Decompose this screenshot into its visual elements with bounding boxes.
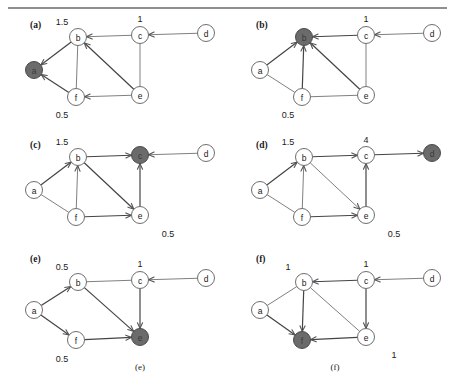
edge-c-to-b xyxy=(87,35,132,36)
panel-tag: (e) xyxy=(30,254,41,265)
node-label-b: b xyxy=(302,33,307,43)
node-label-b: b xyxy=(302,153,307,163)
edge-e-to-f xyxy=(310,337,357,339)
panel-tag: (f) xyxy=(256,254,266,265)
node-label-a: a xyxy=(32,186,37,196)
weight-label: 1 xyxy=(285,262,290,272)
edge-c-to-b xyxy=(313,280,358,281)
edge-a-to-b xyxy=(267,162,297,185)
edge-b-to-e xyxy=(84,288,133,332)
graph-panel-f: abcdef111(f) xyxy=(252,254,441,360)
panel-tag: (a) xyxy=(30,20,41,31)
edge-d-to-c xyxy=(149,153,198,154)
node-label-d: d xyxy=(430,149,435,159)
edge-d-to-c xyxy=(149,278,198,279)
edge-f-to-b xyxy=(302,46,303,89)
edge-b-to-f xyxy=(302,290,303,331)
node-label-a: a xyxy=(32,306,37,316)
edge-a-to-f xyxy=(41,195,69,213)
graph-panel-c: abcdef1.50.5(c) xyxy=(26,137,215,239)
edge-b-to-c xyxy=(313,155,358,156)
edge-b-to-c xyxy=(87,280,132,281)
edge-f-to-e xyxy=(84,337,131,339)
edge-d-to-c xyxy=(375,33,424,34)
edge-a-to-f xyxy=(267,75,295,93)
weight-label: 1 xyxy=(363,259,368,269)
node-label-d: d xyxy=(204,29,209,39)
weight-label: 1 xyxy=(391,350,396,360)
weight-label: 1 xyxy=(137,14,142,24)
panels-group: abcdef1.510.5(a)abcdef10.5(b)abcdef1.50.… xyxy=(26,14,441,364)
edge-a-to-f xyxy=(267,315,295,335)
edge-b-to-e xyxy=(310,163,360,209)
edge-f-to-e xyxy=(85,215,132,216)
node-label-b: b xyxy=(76,33,81,43)
edge-f-to-a xyxy=(41,75,69,93)
graph-panel-e: abcdef0.510.5(e) xyxy=(26,254,215,364)
edge-a-to-b xyxy=(267,42,297,65)
bottom-captions-group: (e)(f) xyxy=(135,362,340,372)
node-label-d: d xyxy=(430,274,435,284)
node-label-a: a xyxy=(32,66,37,76)
node-label-a: a xyxy=(258,306,263,316)
node-label-b: b xyxy=(302,278,307,288)
node-label-d: d xyxy=(204,149,209,159)
edge-e-to-b xyxy=(310,43,360,89)
edge-a-to-f xyxy=(41,315,69,335)
node-label-d: d xyxy=(204,274,209,284)
edge-c-to-b xyxy=(313,35,358,36)
edge-a-to-b xyxy=(41,287,71,306)
edge-a-to-b xyxy=(267,287,297,306)
edge-e-to-b xyxy=(84,43,134,89)
weight-label: 1.5 xyxy=(56,137,69,147)
weight-label: 0.5 xyxy=(388,229,401,239)
panel-tag: (c) xyxy=(30,140,41,151)
weight-label: 0.5 xyxy=(56,262,69,272)
weight-label: 1.5 xyxy=(282,137,295,147)
weight-label: 1 xyxy=(137,259,142,269)
node-label-e: e xyxy=(364,333,369,343)
weight-label: 0.5 xyxy=(56,354,69,364)
node-label-d: d xyxy=(430,29,435,39)
panel-tag: (b) xyxy=(256,20,268,31)
graph-panel-b: abcdef10.5(b) xyxy=(252,14,441,120)
node-label-e: e xyxy=(138,91,143,101)
edge-b-to-c xyxy=(87,155,132,156)
edge-f-to-b xyxy=(76,166,77,209)
node-label-e: e xyxy=(364,91,369,101)
edge-c-to-d xyxy=(375,153,424,154)
weight-label: 4 xyxy=(363,135,368,145)
weight-label: 0.5 xyxy=(162,229,175,239)
node-label-e: e xyxy=(364,211,369,221)
node-label-e: e xyxy=(138,211,143,221)
node-label-a: a xyxy=(258,186,263,196)
edge-d-to-c xyxy=(375,278,424,279)
graph-figure: abcdef1.510.5(a)abcdef10.5(b)abcdef1.50.… xyxy=(0,0,455,384)
edge-d-to-c xyxy=(149,33,198,34)
node-label-b: b xyxy=(76,153,81,163)
figure-caption: (e) xyxy=(135,362,145,372)
weight-label: 0.5 xyxy=(56,110,69,120)
node-label-e: e xyxy=(138,333,143,343)
edge-b-to-e xyxy=(310,288,359,332)
edge-f-to-e xyxy=(311,95,358,96)
node-label-a: a xyxy=(258,66,263,76)
edge-b-to-f xyxy=(76,46,77,89)
weight-label: 0.5 xyxy=(282,110,295,120)
panel-tag: (d) xyxy=(256,140,268,151)
graph-panel-a: abcdef1.510.5(a) xyxy=(26,14,215,120)
edge-a-to-f xyxy=(267,195,295,213)
edge-f-to-b xyxy=(302,166,303,209)
edge-a-to-b xyxy=(41,162,71,185)
weight-label: 1.5 xyxy=(56,17,69,27)
edge-b-to-e xyxy=(84,163,134,209)
graph-panel-d: abcdef1.540.5(d) xyxy=(252,135,441,239)
edge-f-to-e xyxy=(311,215,358,216)
figure-caption: (f) xyxy=(331,362,340,372)
edge-b-to-a xyxy=(41,42,71,65)
node-label-b: b xyxy=(76,278,81,288)
weight-label: 1 xyxy=(363,14,368,24)
edge-e-to-f xyxy=(85,95,132,96)
